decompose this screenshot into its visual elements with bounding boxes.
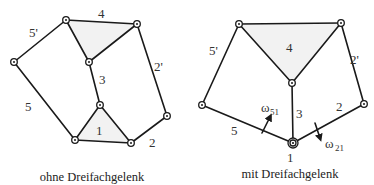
- link-1-fill: [75, 105, 131, 143]
- label-omega-51: ω: [261, 100, 270, 115]
- label-1: 1: [96, 123, 103, 138]
- link-5: [14, 62, 75, 140]
- triple-joint-icon: [288, 138, 298, 148]
- joint-icon: [86, 59, 93, 66]
- joint-icon: [97, 102, 104, 109]
- joint-icon: [11, 59, 18, 66]
- joint-icon: [128, 140, 135, 147]
- label-2: 2: [149, 135, 156, 150]
- joint-icon: [134, 21, 141, 28]
- label-omega-21-subscript: 21: [335, 143, 344, 153]
- label-omega-51-subscript: 51: [270, 107, 279, 117]
- joint-icon: [289, 80, 296, 87]
- link-4-top: [239, 23, 341, 24]
- joint-icon: [63, 17, 70, 24]
- link-5p: [202, 24, 239, 105]
- label-2p: 2': [350, 52, 359, 67]
- link-3: [292, 83, 293, 143]
- link-5: [202, 105, 293, 143]
- label-5p: 5': [209, 43, 218, 58]
- joint-icon: [361, 101, 368, 108]
- left-diagram: 5' 4 3 2' 5 1 2 ohne Dreifachgelenk: [11, 6, 171, 184]
- joint-icon: [72, 137, 79, 144]
- right-diagram: 5' 4 2' 3 2 5 1 ω 51 ω 21 mit Dreifachge…: [199, 20, 368, 181]
- kinematic-diagrams: 5' 4 3 2' 5 1 2 ohne Dreifachgelenk 5: [0, 0, 374, 185]
- link-5p: [14, 20, 66, 62]
- joint-icon: [199, 102, 206, 109]
- label-omega-21: ω: [325, 136, 334, 151]
- joint-icon: [236, 21, 243, 28]
- label-2p: 2': [154, 59, 163, 74]
- label-4: 4: [98, 6, 105, 21]
- caption-right: mit Dreifachgelenk: [242, 167, 340, 181]
- caption-left: ohne Dreifachgelenk: [40, 170, 145, 184]
- label-3: 3: [99, 72, 106, 87]
- joint-icon: [338, 20, 345, 27]
- label-2: 2: [336, 99, 343, 114]
- joint-icon: [164, 113, 171, 120]
- label-3: 3: [296, 106, 303, 121]
- label-5p: 5': [29, 25, 38, 40]
- label-5: 5: [25, 99, 32, 114]
- label-5: 5: [231, 123, 238, 138]
- label-4: 4: [286, 40, 293, 55]
- omega-51-arrow-icon: [262, 117, 270, 133]
- label-1: 1: [287, 150, 294, 165]
